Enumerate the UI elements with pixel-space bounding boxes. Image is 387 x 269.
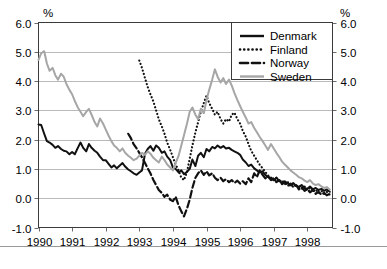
chart-canvas: 6.05.04.03.02.01.00.0-1.0 6.05.04.03.02.… bbox=[0, 0, 387, 269]
y-tick-label: 2.0 bbox=[341, 135, 357, 147]
y-tick-label: 3.0 bbox=[16, 105, 32, 117]
x-tick-label: 1998 bbox=[295, 236, 321, 248]
y-tick-label: 5.0 bbox=[341, 47, 357, 59]
y-tick-label: 6.0 bbox=[16, 18, 32, 30]
x-tick-label: 1990 bbox=[27, 236, 53, 248]
legend-label-denmark: Denmark bbox=[270, 30, 317, 42]
y-tick-label: 1.0 bbox=[16, 164, 32, 176]
y-axis-unit-label-left: % bbox=[43, 7, 53, 19]
y-tick-label: 0.0 bbox=[341, 193, 357, 205]
legend: DenmarkFinlandNorwaySweden bbox=[232, 23, 333, 83]
y-axis-unit-label-right: % bbox=[340, 7, 350, 19]
x-tick-label: 1995 bbox=[195, 236, 221, 248]
legend-label-sweden: Sweden bbox=[270, 71, 312, 83]
x-tick-label: 1991 bbox=[60, 236, 86, 248]
x-tick-label: 1997 bbox=[262, 236, 288, 248]
series-line-norway bbox=[128, 134, 330, 217]
x-axis-ticks bbox=[40, 228, 308, 232]
y-tick-label: 2.0 bbox=[16, 135, 32, 147]
y-tick-label: 4.0 bbox=[16, 76, 32, 88]
y-axis-ticks-right bbox=[333, 24, 337, 229]
legend-label-norway: Norway bbox=[270, 57, 309, 69]
x-tick-label: 1993 bbox=[127, 236, 153, 248]
y-axis-ticks-left bbox=[35, 24, 39, 229]
x-tick-label: 1994 bbox=[161, 236, 187, 248]
x-tick-label: 1996 bbox=[228, 236, 254, 248]
y-tick-label: 1.0 bbox=[341, 164, 357, 176]
y-tick-label: 6.0 bbox=[341, 18, 357, 30]
y-tick-label: 3.0 bbox=[341, 105, 357, 117]
line-chart: 6.05.04.03.02.01.00.0-1.0 6.05.04.03.02.… bbox=[0, 0, 387, 269]
y-tick-label: 4.0 bbox=[341, 76, 357, 88]
y-tick-label: -1.0 bbox=[341, 223, 361, 235]
y-tick-label: -1.0 bbox=[12, 223, 32, 235]
x-axis-tick-labels: 199019911992199319941995199619971998 bbox=[27, 236, 321, 248]
y-axis-tick-labels-left: 6.05.04.03.02.01.00.0-1.0 bbox=[12, 18, 32, 235]
y-tick-label: 0.0 bbox=[16, 193, 32, 205]
y-tick-label: 5.0 bbox=[16, 47, 32, 59]
y-axis-tick-labels-right: 6.05.04.03.02.01.00.0-1.0 bbox=[341, 18, 361, 235]
x-tick-label: 1992 bbox=[94, 236, 120, 248]
legend-label-finland: Finland bbox=[270, 44, 308, 56]
